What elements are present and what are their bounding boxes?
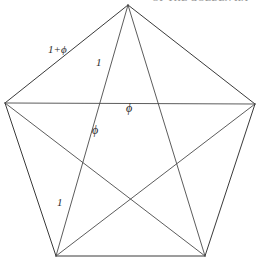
label-mid-phi: ϕ (92, 124, 98, 136)
label-lower-segment: 1 (57, 197, 63, 208)
label-chord-phi: ϕ (126, 102, 132, 114)
diagonal-top-to-bottom-right (128, 5, 205, 256)
pentagon-outline (5, 5, 255, 256)
label-upper-segment: 1 (96, 57, 102, 68)
diagonal-right-to-bottom-left (56, 104, 255, 256)
pentagon-edge-top-right (128, 5, 255, 104)
diagonal-left-to-bottom-right (5, 103, 205, 256)
pentagram-figure: OF THE GOLDEN RA 1+ϕ 1 ϕ ϕ 1 (0, 0, 259, 262)
pentagon-edge-right (205, 104, 255, 256)
label-edge-length: 1+ϕ (48, 44, 67, 55)
pentagon-pentagram-drawing (0, 0, 259, 262)
pentagon-edge-left (5, 103, 56, 256)
